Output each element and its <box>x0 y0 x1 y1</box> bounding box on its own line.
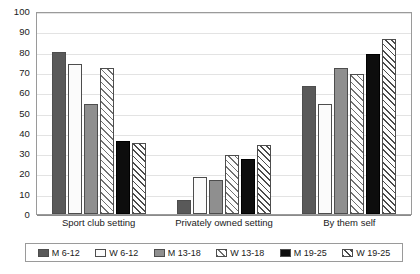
bar[interactable] <box>132 143 146 214</box>
legend-item[interactable]: W 13-18 <box>216 248 264 258</box>
y-axis-tick-label: 60 <box>19 88 30 98</box>
bar[interactable] <box>116 141 130 214</box>
legend-label: M 6-12 <box>52 248 80 258</box>
y-axis-tick-label: 30 <box>19 149 30 159</box>
bar[interactable] <box>68 64 82 214</box>
plot-area <box>36 12 412 215</box>
bar-group <box>286 13 411 214</box>
legend-swatch-icon <box>280 249 291 257</box>
bar-groups <box>37 13 411 214</box>
y-axis-tick-label: 20 <box>19 169 30 179</box>
y-axis-tick-label: 100 <box>14 7 30 17</box>
bar[interactable] <box>302 86 316 214</box>
legend-label: M 19-25 <box>294 248 327 258</box>
bar-group <box>162 13 287 214</box>
legend-label: W 13-18 <box>230 248 264 258</box>
bar[interactable] <box>382 39 396 214</box>
legend-label: M 13-18 <box>168 248 201 258</box>
chart-legend: M 6-12W 6-12M 13-18W 13-18M 19-25W 19-25 <box>25 243 403 262</box>
bar[interactable] <box>241 159 255 214</box>
legend-swatch-icon <box>342 249 353 257</box>
y-axis-tick-label: 10 <box>19 190 30 200</box>
legend-label: W 6-12 <box>109 248 138 258</box>
x-axis: Sport club settingPrivately owned settin… <box>36 216 412 232</box>
bar[interactable] <box>350 74 364 214</box>
bar[interactable] <box>100 68 114 214</box>
x-axis-category-label: Sport club setting <box>36 216 161 232</box>
legend-swatch-icon <box>216 249 227 257</box>
bar[interactable] <box>318 104 332 214</box>
y-axis-tick-label: 40 <box>19 129 30 139</box>
y-axis-tick-label: 50 <box>19 109 30 119</box>
bar-chart: 0102030405060708090100 Sport club settin… <box>0 0 420 274</box>
x-axis-category-label: Privately owned setting <box>161 216 286 232</box>
bar[interactable] <box>52 52 66 214</box>
legend-item[interactable]: M 13-18 <box>154 248 201 258</box>
legend-label: W 19-25 <box>356 248 390 258</box>
legend-swatch-icon <box>154 249 165 257</box>
legend-swatch-icon <box>95 249 106 257</box>
y-axis: 0102030405060708090100 <box>0 12 34 215</box>
bar[interactable] <box>366 54 380 214</box>
legend-item[interactable]: W 19-25 <box>342 248 390 258</box>
bar[interactable] <box>84 104 98 214</box>
y-axis-tick-label: 80 <box>19 48 30 58</box>
y-axis-tick-label: 90 <box>19 27 30 37</box>
bar[interactable] <box>209 180 223 215</box>
bar[interactable] <box>193 177 207 214</box>
bar[interactable] <box>177 200 191 214</box>
bar[interactable] <box>334 68 348 214</box>
bar[interactable] <box>225 155 239 214</box>
y-axis-tick-label: 70 <box>19 68 30 78</box>
legend-item[interactable]: W 6-12 <box>95 248 138 258</box>
legend-item[interactable]: M 6-12 <box>38 248 80 258</box>
legend-swatch-icon <box>38 249 49 257</box>
bar[interactable] <box>257 145 271 214</box>
bar-group <box>37 13 162 214</box>
bars-layer <box>37 13 411 214</box>
x-axis-category-label: By them self <box>287 216 412 232</box>
y-axis-tick-label: 0 <box>25 210 30 220</box>
legend-item[interactable]: M 19-25 <box>280 248 327 258</box>
